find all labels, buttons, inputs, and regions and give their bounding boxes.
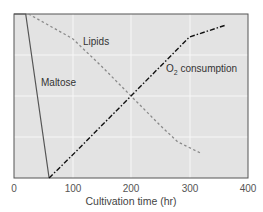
x-tick-0: 0 xyxy=(11,183,17,194)
x-tick-400: 400 xyxy=(240,183,257,194)
x-axis-title: Cultivation time (hr) xyxy=(85,195,176,207)
label-lipids: Lipids xyxy=(83,36,109,47)
o2-consumption-text: consumption xyxy=(178,63,237,74)
x-tick-200: 200 xyxy=(123,183,140,194)
x-tick-100: 100 xyxy=(65,183,82,194)
x-tick-300: 300 xyxy=(182,183,199,194)
x-axis: 0 100 200 300 400 Cultivation time (hr) xyxy=(11,183,257,207)
label-maltose: Maltose xyxy=(41,77,76,88)
line-chart: Maltose Lipids O2 consumption 0 100 200 … xyxy=(0,0,263,212)
